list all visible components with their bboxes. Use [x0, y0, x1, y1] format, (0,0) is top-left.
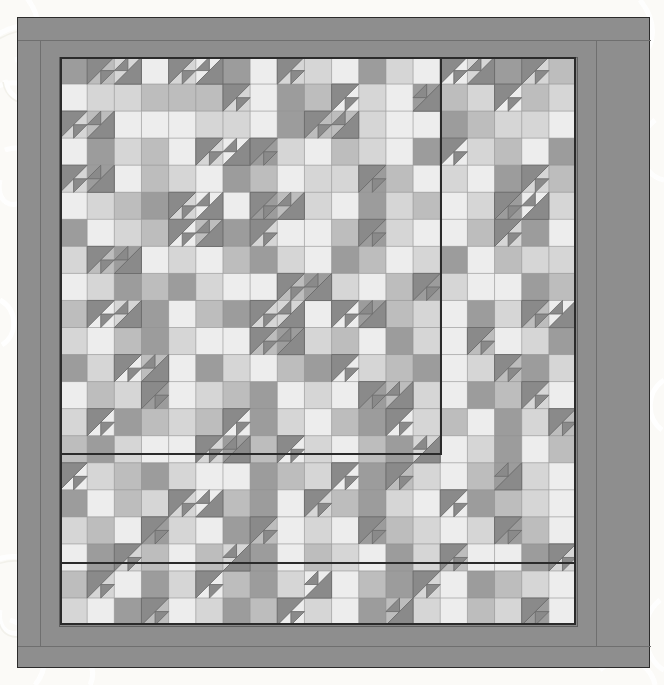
- quilt-patch: [413, 544, 441, 571]
- quilt-patch: [60, 219, 88, 246]
- quilt-patch: [169, 517, 197, 544]
- quilt-patch: [413, 355, 441, 382]
- quilt-patch: [413, 409, 441, 436]
- quilt-patch: [549, 328, 576, 355]
- quilt-patch: [522, 490, 550, 517]
- quilt-patch: [87, 328, 115, 355]
- quilt-patch: [467, 409, 495, 436]
- quilt-patch: [304, 355, 332, 382]
- quilt-patch: [223, 165, 251, 192]
- quilt-patch: [87, 219, 115, 246]
- quilt-patch: [495, 138, 523, 165]
- quilt-patch: [549, 273, 576, 300]
- quilt-patch: [304, 382, 332, 409]
- quilt-patch: [250, 273, 278, 300]
- quilt-patch: [250, 409, 278, 436]
- quilt-patch: [359, 436, 387, 463]
- quilt-patch: [196, 409, 224, 436]
- quilt-patch: [223, 192, 251, 219]
- quilt-patch: [114, 165, 142, 192]
- quilt-patch: [332, 490, 360, 517]
- quilt-patch: [386, 544, 414, 571]
- quilt-patch: [413, 219, 441, 246]
- quilt-patch: [549, 111, 576, 138]
- quilt-patch: [413, 463, 441, 490]
- quilt-patch: [467, 300, 495, 327]
- quilt-patch: [332, 246, 360, 273]
- quilt-field: [60, 57, 576, 625]
- quilt-patch: [413, 598, 441, 625]
- quilt-patch: [413, 165, 441, 192]
- quilt-patch: [440, 219, 468, 246]
- quilt-patch: [304, 300, 332, 327]
- quilt-patch: [495, 273, 523, 300]
- quilt-patch: [141, 328, 169, 355]
- quilt-patch: [277, 463, 305, 490]
- quilt-patch: [304, 517, 332, 544]
- quilt-patch: [332, 138, 360, 165]
- quilt-patch: [114, 219, 142, 246]
- quilt-patch: [196, 165, 224, 192]
- quilt-patch: [250, 246, 278, 273]
- quilt-patch: [277, 111, 305, 138]
- quilt-patch: [223, 111, 251, 138]
- quilt-patch: [196, 273, 224, 300]
- quilt-patch: [277, 138, 305, 165]
- quilt-patch: [141, 84, 169, 111]
- quilt-patch: [87, 84, 115, 111]
- quilt-patch: [114, 463, 142, 490]
- quilt-patch: [250, 355, 278, 382]
- quilt-patch: [114, 436, 142, 463]
- quilt-patch: [169, 84, 197, 111]
- quilt-patch: [549, 436, 576, 463]
- quilt-patch: [277, 571, 305, 598]
- quilt-patch: [549, 219, 576, 246]
- quilt-patch: [332, 436, 360, 463]
- quilt-patch: [196, 382, 224, 409]
- quilt-patch: [87, 490, 115, 517]
- quilt-patch: [196, 544, 224, 571]
- quilt-patch: [386, 111, 414, 138]
- quilt-patch: [549, 165, 576, 192]
- quilt-patch: [413, 111, 441, 138]
- quilt-patch: [440, 409, 468, 436]
- quilt-patch: [141, 571, 169, 598]
- quilt-patch: [440, 273, 468, 300]
- quilt-patch: [386, 490, 414, 517]
- quilt-patch: [495, 165, 523, 192]
- quilt-patch: [60, 409, 88, 436]
- quilt-patch: [277, 165, 305, 192]
- quilt-patch: [169, 165, 197, 192]
- quilt-patch: [169, 598, 197, 625]
- quilt-patch: [141, 273, 169, 300]
- quilt-patch: [141, 544, 169, 571]
- quilt-patch: [386, 355, 414, 382]
- quilt-patch: [440, 382, 468, 409]
- quilt-patch: [304, 246, 332, 273]
- quilt-patch: [467, 138, 495, 165]
- quilt-patch: [141, 138, 169, 165]
- quilt-patch: [169, 544, 197, 571]
- quilt-patch: [169, 138, 197, 165]
- quilt-patch: [169, 300, 197, 327]
- quilt-patch: [87, 517, 115, 544]
- quilt-patch: [440, 355, 468, 382]
- quilt-patch: [522, 138, 550, 165]
- quilt-patch: [114, 409, 142, 436]
- quilt-patch: [223, 598, 251, 625]
- quilt-patch: [304, 84, 332, 111]
- outer-border-seam-top: [18, 40, 651, 41]
- quilt-patch: [141, 111, 169, 138]
- quilt-patch: [141, 219, 169, 246]
- quilt-patch: [440, 84, 468, 111]
- quilt-patch: [440, 463, 468, 490]
- quilt-patch: [440, 300, 468, 327]
- quilt-patch: [304, 598, 332, 625]
- quilt-patch: [250, 165, 278, 192]
- quilt-patch: [332, 409, 360, 436]
- quilt-patch: [250, 544, 278, 571]
- quilt-patch: [413, 382, 441, 409]
- quilt-patch: [413, 517, 441, 544]
- quilt-patch: [467, 571, 495, 598]
- quilt-patch: [332, 598, 360, 625]
